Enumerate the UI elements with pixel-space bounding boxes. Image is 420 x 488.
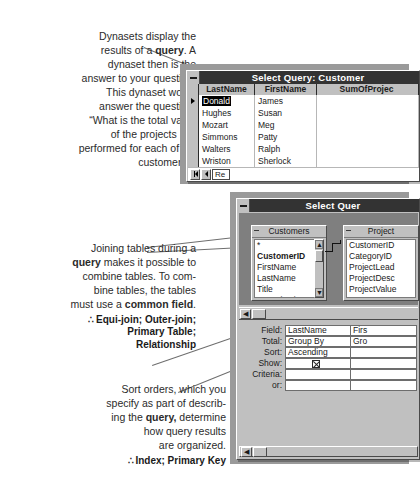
show-checkbox[interactable] [312, 360, 320, 368]
column-header-firstname[interactable]: FirstName [255, 84, 317, 95]
qbe-cell-total[interactable]: Group By [285, 336, 351, 347]
cell-sumofprojects[interactable] [317, 155, 419, 167]
row-selector[interactable] [188, 107, 199, 119]
datasheet-grid: LastName FirstName SumOfProjec DonaldJam… [188, 84, 419, 181]
qbe-cell-show[interactable] [351, 358, 417, 369]
annotation-sort-xrefs: ∴ Index; Primary Key [14, 455, 226, 468]
scroll-left-icon[interactable]: ◀ [241, 447, 252, 457]
qbe-row-label: Field: [239, 325, 285, 336]
annotation-dynaset-body: Dynasets display theresults of a query. … [4, 30, 196, 170]
cell-firstname[interactable]: Patty [255, 131, 317, 143]
cell-firstname[interactable]: Meg [255, 119, 317, 131]
cell-firstname[interactable]: Ralph [255, 143, 317, 155]
field-list-item[interactable]: Title [255, 284, 323, 295]
field-list-item[interactable]: ProjectDesc [347, 273, 415, 284]
annotation-join-xref-list: Equi-join; Outer-join;Primary Table;Rela… [96, 314, 196, 350]
scrollbar-thumb[interactable] [315, 250, 323, 262]
previous-record-icon[interactable] [201, 169, 211, 180]
row-selector[interactable] [188, 119, 199, 131]
minimize-icon[interactable] [237, 199, 250, 212]
qbe-horizontal-scrollbar[interactable]: ◀ [239, 446, 418, 457]
field-list-item[interactable]: CustomerID [347, 240, 415, 251]
field-list-customers-name: Customers [268, 226, 309, 236]
field-list-item[interactable]: FirstName [255, 262, 323, 273]
field-list-item[interactable]: CustomerID [255, 251, 323, 262]
field-list-mini-icon [346, 230, 351, 231]
cell-sumofprojects[interactable] [317, 131, 419, 143]
field-list-item[interactable]: Note [347, 295, 415, 298]
scroll-up-icon[interactable]: ▲ [315, 240, 323, 249]
qbe-row: Field:LastNameFirs [239, 325, 418, 336]
qbe-rows: Field:LastNameFirsTotal:Group ByGroSort:… [239, 325, 418, 391]
cell-sumofprojects[interactable] [317, 95, 419, 107]
field-list-projects-title: Project [344, 226, 418, 238]
qbe-cell-sort[interactable] [351, 347, 417, 358]
cell-lastname[interactable]: Hughes [199, 107, 255, 119]
annotation-join: Joining tables during aquery makes it po… [4, 242, 196, 351]
cell-firstname[interactable]: James [255, 95, 317, 107]
qbe-row: Show: [239, 358, 418, 369]
qbe-row: Criteria: [239, 369, 418, 380]
datasheet-window: Select Query: Customer LastName FirstNam… [186, 70, 420, 182]
qbe-row: Total:Group ByGro [239, 336, 418, 347]
qbe-cell-or[interactable] [285, 380, 351, 391]
qbe-row-label: or: [239, 380, 285, 391]
record-number-field[interactable]: Re [212, 169, 230, 180]
qbe-cell-or[interactable] [351, 380, 417, 391]
record-navigator: Re [190, 168, 230, 180]
annotation-join-body: Joining tables during aquery makes it po… [4, 242, 196, 312]
field-list-item[interactable]: LastName [255, 273, 323, 284]
field-list-item[interactable]: * [255, 240, 323, 251]
qbe-cell-criteria[interactable] [285, 369, 351, 380]
cell-sumofprojects[interactable] [317, 143, 419, 155]
qbe-cell-criteria[interactable] [351, 369, 417, 380]
field-list-customers[interactable]: Customers *CustomerIDFirstNameLastNameTi… [251, 225, 327, 301]
row-selector[interactable] [188, 95, 199, 107]
qbe-row: or: [239, 380, 418, 391]
cell-lastname[interactable]: Donald [199, 95, 255, 107]
annotation-sort-body: Sort orders, which youspecify as part of… [14, 383, 226, 453]
qbe-cell-field[interactable]: Firs [351, 325, 417, 336]
table-row[interactable]: WristonSherlock [188, 155, 419, 168]
column-header-lastname[interactable]: LastName [199, 84, 255, 95]
annotation-sort-xref-list: Index; Primary Key [135, 455, 226, 466]
annotation-sort: Sort orders, which youspecify as part of… [14, 383, 226, 467]
scroll-left-icon[interactable]: ◀ [240, 309, 251, 319]
qbe-cell-total[interactable]: Gro [351, 336, 417, 347]
cell-firstname[interactable]: Susan [255, 107, 317, 119]
first-record-icon[interactable] [190, 169, 200, 180]
cell-firstname[interactable]: Sherlock [255, 155, 317, 167]
row-selector[interactable] [188, 131, 199, 143]
current-record-icon [191, 98, 195, 104]
row-selector[interactable] [188, 155, 199, 167]
cell-lastname[interactable]: Wriston [199, 155, 255, 167]
cell-lastname[interactable]: Walters [199, 143, 255, 155]
splitter-thumb[interactable] [252, 309, 266, 319]
cell-lastname[interactable]: Mozart [199, 119, 255, 131]
field-list-item[interactable]: CategoryID [347, 251, 415, 262]
qbe-cell-show[interactable] [285, 358, 351, 369]
field-list-projects[interactable]: Project CustomerIDCategoryIDProjectLeadP… [343, 225, 419, 301]
design-title: Select Quer [250, 200, 419, 211]
column-header-sumofprojects[interactable]: SumOfProjec [317, 84, 419, 95]
cell-sumofprojects[interactable] [317, 119, 419, 131]
minimize-icon[interactable] [187, 71, 200, 84]
qbe-cell-field[interactable]: LastName [285, 325, 351, 336]
field-list-item[interactable]: OrganizationNa [255, 295, 323, 298]
scroll-down-icon[interactable]: ▼ [315, 288, 323, 297]
row-selector[interactable] [188, 143, 199, 155]
field-list-projects-items[interactable]: CustomerIDCategoryIDProjectLeadProjectDe… [346, 239, 416, 298]
join-line-v [332, 243, 333, 252]
pane-splitter-scrollbar[interactable]: ◀ [239, 307, 418, 320]
qbe-row-label: Sort: [239, 347, 285, 358]
qbe-row: Sort:Ascending [239, 347, 418, 358]
select-all-corner[interactable] [188, 84, 199, 95]
qbe-scrollbar-thumb[interactable] [253, 447, 267, 457]
field-list-item[interactable]: ProjectLead [347, 262, 415, 273]
qbe-cell-sort[interactable]: Ascending [285, 347, 351, 358]
field-list-customers-scrollbar[interactable]: ▲ ▼ [314, 239, 324, 298]
cell-lastname[interactable]: Simmons [199, 131, 255, 143]
crossref-glyph: ∴ [88, 315, 93, 325]
field-list-item[interactable]: ProjectValue [347, 284, 415, 295]
cell-sumofprojects[interactable] [317, 107, 419, 119]
